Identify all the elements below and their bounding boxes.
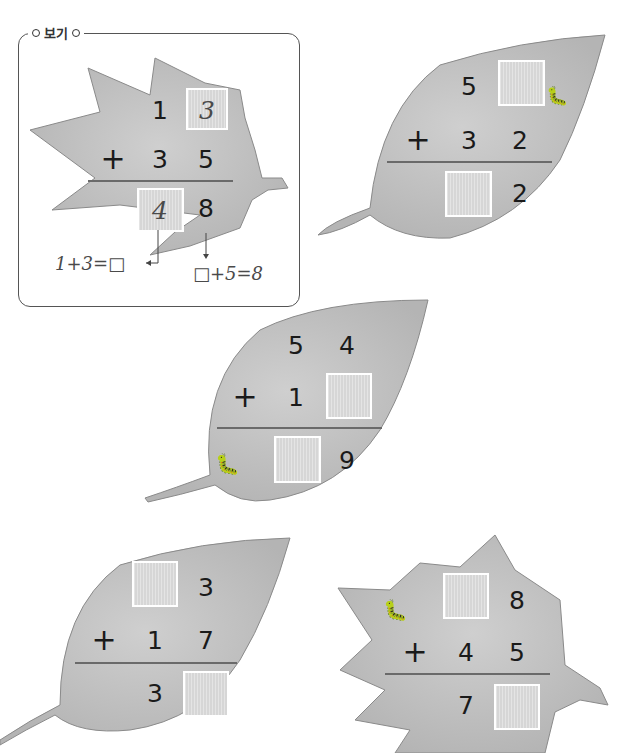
example-result-ones: 8 <box>198 196 214 221</box>
p2-operator: + <box>232 382 257 412</box>
p2-bottom-tens: 1 <box>288 385 304 410</box>
p1-top-tens: 5 <box>461 74 477 99</box>
example-filled-top-ones: 3 <box>199 98 215 123</box>
example-top-tens: 1 <box>152 98 168 123</box>
p4-result-tens: 7 <box>458 693 474 718</box>
p4-bottom-tens: 4 <box>458 640 474 665</box>
p4-blank-top-tens[interactable] <box>445 575 487 617</box>
example-label: 보기 <box>28 23 84 42</box>
p1-bottom-tens: 3 <box>461 128 477 153</box>
ring-icon <box>72 29 80 37</box>
p3-blank-result-ones[interactable] <box>185 673 227 715</box>
example-bottom-tens: 3 <box>152 147 168 172</box>
caterpillar-icon: 🐛 <box>215 452 240 476</box>
p1-sum-line <box>387 161 552 163</box>
caterpillar-icon: 🐛 <box>546 85 568 106</box>
p3-bottom-ones: 7 <box>198 628 214 653</box>
p3-blank-top-tens[interactable] <box>134 563 176 605</box>
p2-top-ones: 4 <box>339 333 355 358</box>
p4-blank-result-ones[interactable] <box>496 686 538 728</box>
p3-sum-line <box>75 662 237 664</box>
p2-result-ones: 9 <box>339 448 355 473</box>
p4-sum-line <box>385 673 550 675</box>
example-hint-right: □+5=8 <box>193 263 263 284</box>
p4-bottom-ones: 5 <box>509 640 525 665</box>
example-operator: + <box>100 144 125 174</box>
p1-operator: + <box>405 125 430 155</box>
example-bottom-ones: 5 <box>198 147 214 172</box>
p3-top-ones: 3 <box>198 575 214 600</box>
p2-blank-bottom-ones[interactable] <box>328 375 370 417</box>
p2-top-tens: 5 <box>288 333 304 358</box>
p1-blank-top-ones[interactable] <box>500 62 543 104</box>
p2-sum-line <box>217 427 382 429</box>
p4-top-ones: 8 <box>509 588 525 613</box>
p1-result-ones: 2 <box>512 181 528 206</box>
p3-bottom-tens: 1 <box>147 628 163 653</box>
example-sum-line <box>88 180 233 182</box>
example-filled-result-tens: 4 <box>152 198 168 223</box>
p2-blank-result-tens[interactable] <box>276 438 319 481</box>
p3-operator: + <box>91 625 116 655</box>
caterpillar-icon: 🐛 <box>383 598 408 622</box>
p1-bottom-ones: 2 <box>512 128 528 153</box>
p3-result-tens: 3 <box>147 681 163 706</box>
example-title: 보기 <box>44 23 68 42</box>
p4-operator: + <box>402 637 427 667</box>
example-hint-left: 1+3=□ <box>55 253 125 274</box>
p1-blank-result-tens[interactable] <box>447 173 490 215</box>
ring-icon <box>32 29 40 37</box>
